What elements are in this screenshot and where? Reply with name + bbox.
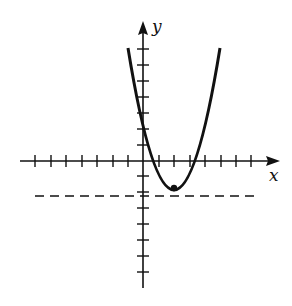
y-axis xyxy=(137,21,149,288)
x-axis-label: x xyxy=(269,165,279,185)
parabola-graph: y x xyxy=(0,0,292,306)
y-axis-arrow-icon xyxy=(138,21,148,35)
y-axis-label: y xyxy=(151,16,162,36)
parabola-curve xyxy=(128,48,220,190)
x-axis xyxy=(20,155,280,167)
vertex-point xyxy=(171,185,177,191)
